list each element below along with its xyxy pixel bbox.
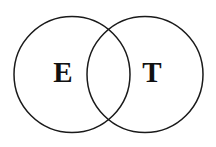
venn-diagram-figure: E T: [0, 0, 216, 147]
venn-label-left: E: [53, 56, 72, 88]
venn-label-right: T: [142, 56, 161, 88]
venn-diagram-canvas: E T: [0, 0, 216, 147]
